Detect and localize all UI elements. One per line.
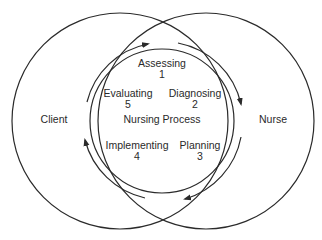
step-number: 2 [169, 99, 222, 110]
step-assessing: Assessing 1 [138, 58, 186, 80]
step-implementing: Implementing 4 [105, 140, 168, 162]
client-label: Client [41, 114, 68, 125]
step-number: 3 [180, 151, 221, 162]
step-evaluating: Evaluating 5 [103, 88, 152, 110]
step-number: 1 [138, 69, 186, 80]
nurse-label: Nurse [259, 114, 287, 125]
nursing-process-label: Nursing Process [123, 114, 200, 125]
step-diagnosing: Diagnosing 2 [169, 88, 222, 110]
step-number: 5 [103, 99, 152, 110]
step-planning: Planning 3 [180, 140, 221, 162]
step-number: 4 [105, 151, 168, 162]
